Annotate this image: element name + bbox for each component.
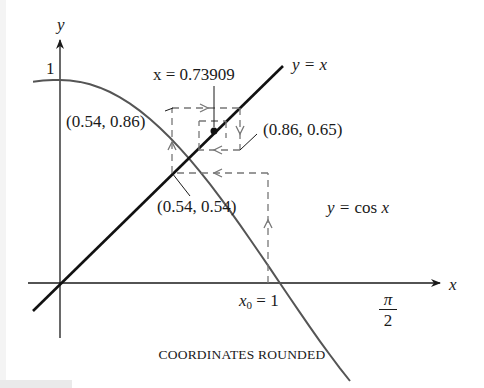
- fixed-point-label: x = 0.73909: [153, 66, 235, 83]
- point-label-0-86-0-65: (0.86, 0.65): [263, 121, 342, 138]
- identity-line: [33, 66, 283, 311]
- x0-var: x: [239, 291, 247, 310]
- x-tick-pi-over-2: π 2: [379, 291, 397, 329]
- y-axis-label: y: [57, 16, 65, 33]
- pi-numerator: π: [379, 291, 397, 310]
- cos-label-var: x: [381, 198, 389, 217]
- x0-value: = 1: [252, 291, 279, 310]
- x-tick-x0: x0 = 1: [239, 292, 279, 311]
- y-tick-1: 1: [46, 60, 55, 77]
- iteration-path: [172, 108, 268, 283]
- identity-line-label: y = x: [292, 56, 327, 73]
- cos-label-fn: cos: [355, 198, 382, 217]
- pi-denominator: 2: [379, 310, 397, 329]
- point-label-0-54-0-86: (0.54, 0.86): [66, 113, 145, 130]
- cos-label-prefix: y =: [327, 198, 355, 217]
- cos-curve-label: y = cos x: [327, 199, 389, 216]
- caption: COORDINATES ROUNDED: [0, 347, 484, 363]
- leader-point-0-86-0-65: [240, 134, 257, 150]
- point-label-0-54-0-54: (0.54, 0.54): [157, 198, 236, 215]
- fixed-point-marker: [211, 128, 218, 135]
- leader-point-0-54-0-54: [172, 173, 190, 196]
- plot-canvas: [0, 0, 484, 388]
- x-axis-label: x: [449, 276, 457, 293]
